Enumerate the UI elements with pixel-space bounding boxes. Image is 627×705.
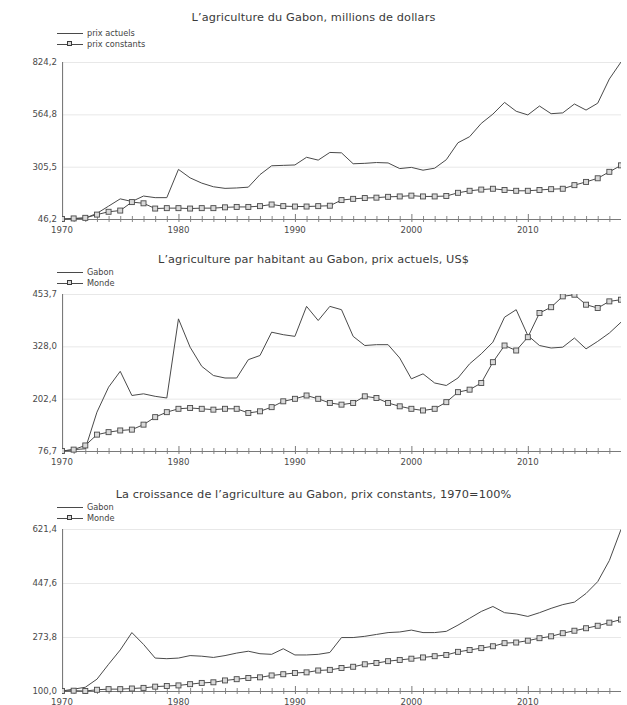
data-point-marker <box>292 670 297 675</box>
legend-item[interactable]: Gabon <box>57 267 115 278</box>
data-point-marker <box>269 405 274 410</box>
y-tick-label: 447,6 <box>0 578 57 588</box>
data-point-marker <box>327 203 332 208</box>
data-point-marker <box>106 687 111 692</box>
data-point-marker <box>455 190 460 195</box>
data-point-marker <box>153 206 158 211</box>
data-point-marker <box>257 204 262 209</box>
data-point-marker <box>141 201 146 206</box>
data-point-marker <box>118 428 123 433</box>
data-point-marker <box>211 206 216 211</box>
data-point-marker <box>607 620 612 625</box>
data-point-marker <box>607 299 612 304</box>
data-point-marker <box>164 206 169 211</box>
legend-item[interactable]: prix constants <box>57 39 145 50</box>
data-point-marker <box>199 206 204 211</box>
data-point-marker <box>514 188 519 193</box>
data-point-marker <box>176 683 181 688</box>
chart-panel-croissance: La croissance de l’agriculture au Gabon,… <box>0 486 627 705</box>
x-tick-label: 1980 <box>168 697 190 705</box>
data-point-marker <box>339 402 344 407</box>
data-point-marker <box>223 678 228 683</box>
data-point-marker <box>118 208 123 213</box>
data-point-marker <box>386 659 391 664</box>
data-point-marker <box>619 617 622 622</box>
data-point-marker <box>490 186 495 191</box>
x-tick-label: 1990 <box>284 225 306 235</box>
data-point-marker <box>467 647 472 652</box>
data-point-marker <box>269 202 274 207</box>
data-point-marker <box>432 194 437 199</box>
data-point-marker <box>409 406 414 411</box>
y-tick-label: 621,4 <box>0 524 57 534</box>
data-point-marker <box>432 654 437 659</box>
data-point-marker <box>444 194 449 199</box>
data-point-marker <box>62 217 65 222</box>
legend-item[interactable]: Monde <box>57 278 115 289</box>
data-point-marker <box>176 406 181 411</box>
series-line-gabon <box>62 306 621 451</box>
data-point-marker <box>479 187 484 192</box>
data-point-marker <box>386 400 391 405</box>
data-point-marker <box>257 409 262 414</box>
legend-item[interactable]: Gabon <box>57 502 115 513</box>
data-point-marker <box>281 672 286 677</box>
legend-item[interactable]: prix actuels <box>57 28 145 39</box>
data-point-marker <box>362 662 367 667</box>
data-point-marker <box>502 641 507 646</box>
data-point-marker <box>351 400 356 405</box>
data-point-marker <box>409 193 414 198</box>
data-point-marker <box>455 649 460 654</box>
legend-item[interactable]: Monde <box>57 513 115 524</box>
data-point-marker <box>537 187 542 192</box>
data-point-marker <box>432 406 437 411</box>
data-point-marker <box>281 399 286 404</box>
data-point-marker <box>374 395 379 400</box>
data-point-marker <box>71 216 76 221</box>
y-tick-label: 305,5 <box>0 162 57 172</box>
data-point-marker <box>479 380 484 385</box>
data-point-marker <box>153 684 158 689</box>
legend-line-icon <box>57 267 83 278</box>
chart-svg-agriculture-gabon-millions-dollars <box>62 62 621 229</box>
legend-label: Gabon <box>87 267 114 278</box>
data-point-marker <box>525 335 530 340</box>
legend-line-icon <box>57 28 83 39</box>
x-tick-label: 2000 <box>400 225 422 235</box>
chart-panel-par-habitant: L’agriculture par habitant au Gabon, pri… <box>0 250 627 486</box>
data-point-marker <box>397 657 402 662</box>
data-point-marker <box>129 427 134 432</box>
y-tick-label: 824,2 <box>0 57 57 67</box>
data-point-marker <box>327 400 332 405</box>
data-point-marker <box>118 687 123 692</box>
data-point-marker <box>83 215 88 220</box>
legend-label: prix constants <box>87 39 145 50</box>
data-point-marker <box>362 394 367 399</box>
data-point-marker <box>572 183 577 188</box>
data-point-marker <box>619 297 622 302</box>
data-point-marker <box>514 348 519 353</box>
data-point-marker <box>83 689 88 694</box>
x-tick-label: 1970 <box>51 697 73 705</box>
data-point-marker <box>304 204 309 209</box>
data-point-marker <box>246 410 251 415</box>
x-tick-label: 2000 <box>400 457 422 467</box>
data-point-marker <box>62 449 65 454</box>
data-point-marker <box>444 400 449 405</box>
legend-label: Monde <box>87 513 115 524</box>
data-point-marker <box>595 176 600 181</box>
series-line-prix-actuels <box>62 62 621 219</box>
chart-legend: prix actuels prix constants <box>57 28 145 50</box>
data-point-marker <box>234 406 239 411</box>
data-point-marker <box>455 390 460 395</box>
data-point-marker <box>211 680 216 685</box>
data-point-marker <box>246 675 251 680</box>
y-tick-label: 564,8 <box>0 109 57 119</box>
data-point-marker <box>71 447 76 452</box>
legend-square-marker-icon <box>57 39 83 50</box>
data-point-marker <box>421 655 426 660</box>
x-tick-label: 1990 <box>284 457 306 467</box>
data-point-marker <box>199 680 204 685</box>
data-point-marker <box>327 667 332 672</box>
data-point-marker <box>141 685 146 690</box>
